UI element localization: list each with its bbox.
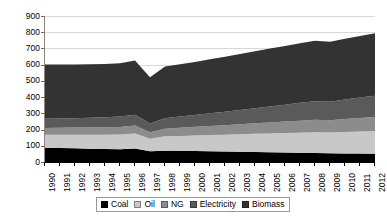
x-axis-tick-label: 1993	[93, 173, 102, 192]
x-axis-tick-label: 2002	[228, 173, 237, 192]
x-axis-tick-label: 1991	[63, 173, 72, 192]
legend-item[interactable]: Biomass	[242, 200, 285, 209]
legend-swatch-icon	[134, 201, 141, 208]
y-axis-tick-mark	[41, 146, 45, 147]
y-axis-tick-mark	[41, 48, 45, 49]
legend-label: Biomass	[252, 200, 285, 209]
y-axis-tick-label: 900	[14, 12, 40, 21]
y-axis-tick-mark	[41, 32, 45, 33]
x-axis-tick-label: 1996	[138, 173, 147, 192]
x-axis-tick-label: 2008	[318, 173, 327, 192]
legend-swatch-icon	[101, 201, 108, 208]
y-axis-tick-label: 300	[14, 109, 40, 118]
y-axis-tick-label: 200	[14, 125, 40, 134]
x-axis-tick-label: 1998	[168, 173, 177, 192]
x-axis-tick-label: 1999	[183, 173, 192, 192]
area-series-layer	[45, 16, 375, 162]
x-axis-tick-label: 2010	[348, 173, 357, 192]
x-axis-tick-label: 2004	[258, 173, 267, 192]
x-axis-tick-label: 2000	[198, 173, 207, 192]
x-axis-tick-label: 2012	[378, 173, 387, 192]
legend-label: Electricity	[200, 200, 236, 209]
y-axis-tick-label: 600	[14, 60, 40, 69]
x-axis-tick-label: 2007	[303, 173, 312, 192]
legend-label: Coal	[111, 200, 128, 209]
x-axis-tick-label: 2011	[363, 174, 372, 192]
plot-area	[44, 16, 375, 163]
legend-item[interactable]: NG	[161, 200, 184, 209]
x-axis-tick-label: 1994	[108, 173, 117, 192]
legend-label: NG	[171, 200, 184, 209]
legend-label: Oil	[144, 200, 154, 209]
legend-swatch-icon	[190, 201, 197, 208]
x-axis-tick-label: 2009	[333, 173, 342, 192]
x-axis-tick-label: 2003	[243, 173, 252, 192]
x-axis-tick-label: 2001	[213, 173, 222, 192]
x-axis-tick-label: 1995	[123, 173, 132, 192]
y-axis-tick-mark	[41, 16, 45, 17]
y-axis-tick-label: 0	[14, 158, 40, 167]
y-axis-tick-label: 500	[14, 76, 40, 85]
y-axis-tick-mark	[41, 113, 45, 114]
x-axis-tick-label: 1992	[78, 173, 87, 192]
x-axis-tick-label: 2005	[273, 173, 282, 192]
x-axis-tick-label: 1990	[48, 173, 57, 192]
y-axis-tick-label: 700	[14, 44, 40, 53]
y-axis-tick-mark	[41, 81, 45, 82]
legend-item[interactable]: Electricity	[190, 200, 236, 209]
y-axis-tick-mark	[41, 130, 45, 131]
legend-swatch-icon	[242, 201, 249, 208]
x-axis-tick-label: 2006	[288, 173, 297, 192]
y-axis-tick-label: 100	[14, 141, 40, 150]
x-axis-tick-label: 1997	[153, 173, 162, 192]
x-axis-tick-labels: 1990199119921993199419951996199719981999…	[44, 166, 375, 194]
legend-item[interactable]: Oil	[134, 200, 154, 209]
y-axis-tick-label: 800	[14, 28, 40, 37]
chart-legend: CoalOilNGElectricityBiomass	[96, 197, 290, 212]
y-axis-tick-mark	[41, 97, 45, 98]
y-axis-tick-labels: 9008007006005004003002001000	[14, 10, 40, 164]
y-axis-tick-label: 400	[14, 93, 40, 102]
legend-item[interactable]: Coal	[101, 200, 128, 209]
y-axis-tick-mark	[41, 65, 45, 66]
legend-swatch-icon	[161, 201, 168, 208]
